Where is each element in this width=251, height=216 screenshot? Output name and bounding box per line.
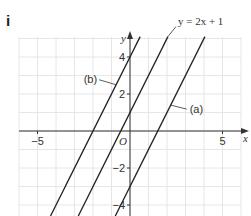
y-axis-arrow-icon	[127, 31, 133, 39]
x-tick-label: 5	[219, 135, 225, 147]
x-axis-label: x	[242, 132, 248, 144]
series-label-a: (a)	[190, 103, 203, 115]
y-tick-label: −2	[112, 162, 125, 174]
series-line-given	[78, 37, 168, 216]
series-line-a	[115, 37, 205, 216]
series-lines	[51, 37, 205, 216]
y-axis-label: y	[120, 32, 126, 44]
y-tick-label: 2	[119, 88, 125, 100]
series-label-b: (b)	[84, 73, 97, 85]
series-line-b	[51, 37, 141, 216]
leader-line-given	[168, 27, 176, 37]
line-graph: −5542−2−4xyO(b)y = 2x + 1(a)	[0, 0, 251, 216]
axes	[19, 31, 249, 216]
y-tick-label: 4	[119, 51, 125, 63]
origin-label: O	[119, 135, 127, 147]
x-tick-label: −5	[31, 135, 44, 147]
leader-line-b	[99, 80, 116, 85]
leader-line-a	[171, 105, 187, 109]
series-label-given: y = 2x + 1	[178, 15, 223, 27]
y-tick-label: −4	[112, 199, 125, 211]
